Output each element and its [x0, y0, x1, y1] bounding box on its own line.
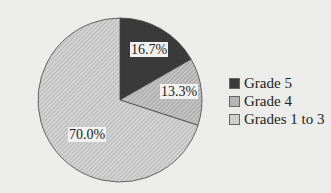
slice-label-grade5: 16.7% — [130, 42, 168, 57]
legend-label: Grades 1 to 3 — [244, 111, 324, 128]
legend-swatch-grade5 — [229, 78, 240, 89]
chart-legend: Grade 5 Grade 4 Grades 1 to 3 — [229, 74, 324, 128]
legend-label: Grade 4 — [244, 93, 292, 110]
legend-label: Grade 5 — [244, 75, 292, 92]
legend-item-grade5: Grade 5 — [229, 74, 324, 92]
slice-label-grades1to3: 70.0% — [68, 127, 106, 142]
legend-swatch-grade4 — [229, 96, 240, 107]
legend-swatch-grades1to3 — [229, 114, 240, 125]
slice-label-grade4: 13.3% — [160, 84, 198, 99]
legend-item-grades1to3: Grades 1 to 3 — [229, 110, 324, 128]
legend-item-grade4: Grade 4 — [229, 92, 324, 110]
